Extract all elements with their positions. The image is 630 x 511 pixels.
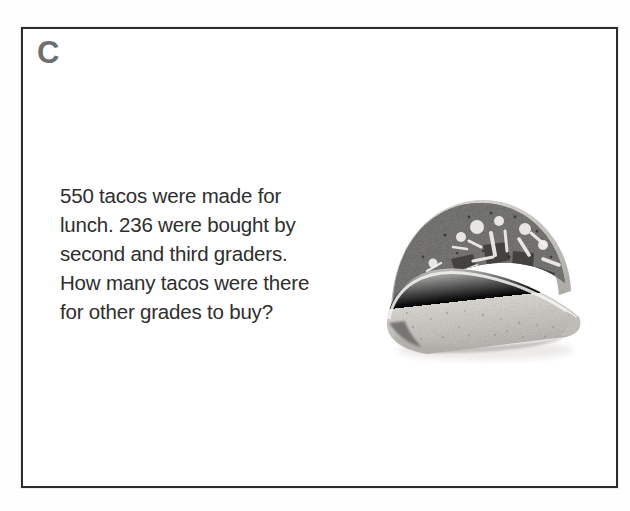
problem-label-c: C [37, 37, 59, 68]
question-text: 550 tacos were made for lunch. 236 were … [60, 181, 370, 326]
worksheet-page: C 550 tacos were made for lunch. 236 wer… [0, 0, 630, 511]
problem-card: C 550 tacos were made for lunch. 236 wer… [21, 27, 618, 488]
taco-photo-svg [373, 187, 591, 377]
taco-illustration [373, 187, 591, 377]
